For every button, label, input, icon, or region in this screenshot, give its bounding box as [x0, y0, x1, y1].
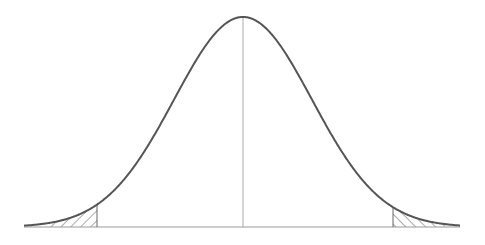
left-tail-rejection-region — [44, 205, 97, 227]
normal-distribution-chart — [0, 0, 485, 245]
hatch-fill — [393, 207, 445, 227]
right-tail-rejection-region — [393, 207, 445, 227]
bell-curve — [24, 17, 460, 226]
hatch-fill — [44, 205, 97, 227]
